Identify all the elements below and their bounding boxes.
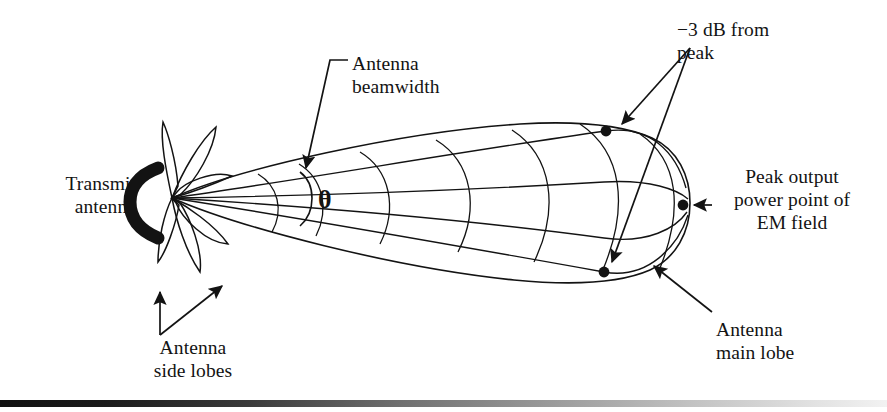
- longitudinal-line-lower: [172, 198, 688, 273]
- label-peak-output-power-point: Peak output power point of EM field: [706, 165, 878, 234]
- side-lobe-lower-mid: [172, 198, 200, 272]
- label-minus-3db-from-peak: −3 dB from peak: [677, 18, 837, 64]
- label-antenna-beamwidth: Antenna beamwidth: [352, 52, 512, 98]
- beamwidth-arc: [300, 172, 312, 226]
- peak-output-point-dot: [678, 200, 689, 211]
- label-antenna-main-lobe: Antenna main lobe: [716, 318, 866, 364]
- ring-6: [580, 124, 618, 272]
- minus-3db-upper-dot: [601, 126, 612, 137]
- minus-3db-lower-dot: [599, 267, 610, 278]
- leader-minus3db-lower: [612, 48, 690, 262]
- leader-antenna-main-lobe: [654, 266, 712, 312]
- main-lobe-longitudinal-lines: [172, 130, 688, 273]
- side-lobe-upper-mid: [172, 127, 216, 198]
- leader-side-lobe-diagonal: [160, 286, 222, 335]
- beamwidth-theta-symbol: θ: [318, 185, 332, 214]
- ring-4: [436, 140, 470, 252]
- page-bottom-rule: [0, 400, 887, 407]
- side-lobe-lower-left: [158, 198, 179, 262]
- longitudinal-line-upper: [172, 130, 686, 198]
- marker-dots-group: [599, 126, 689, 278]
- leader-antenna-beamwidth: [306, 60, 348, 168]
- label-transmit-antenna: Transmit antenna: [18, 172, 136, 218]
- longitudinal-line-mid-upper: [172, 181, 688, 199]
- ring-5: [512, 130, 549, 262]
- antenna-radiation-pattern-figure: θ Transmit antenna Antenna beamwidth −3: [0, 0, 887, 412]
- longitudinal-line-mid-lower: [172, 198, 687, 239]
- label-antenna-side-lobes: Antenna side lobes: [108, 336, 278, 382]
- side-lobe-upper-left: [162, 122, 178, 198]
